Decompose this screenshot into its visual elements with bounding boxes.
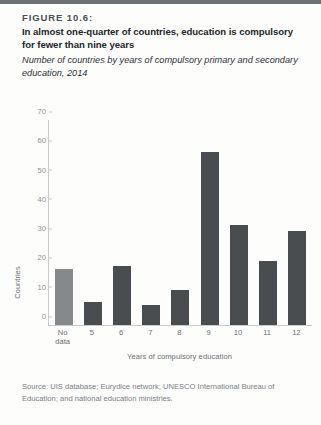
- y-axis-tick: 40: [38, 194, 49, 203]
- bar-slot: [224, 120, 253, 325]
- source-note: Source: UIS database; Eurydice network; …: [22, 381, 304, 405]
- y-axis-tick-label: 70: [38, 107, 49, 116]
- bar[interactable]: [288, 231, 306, 325]
- figure-label: FIGURE 10.6:: [22, 12, 302, 23]
- bar-chart: Countries 010203040506070 Nodata56789101…: [0, 108, 321, 370]
- bar-slot: [137, 120, 166, 325]
- y-axis-tick: 30: [38, 224, 49, 233]
- x-axis-tick-label: 5: [77, 328, 106, 347]
- bar-series: [49, 120, 312, 325]
- bar[interactable]: [142, 305, 160, 326]
- x-axis-tick-label: 8: [165, 328, 194, 347]
- x-axis-tick-label: 10: [223, 328, 252, 347]
- bar[interactable]: [113, 266, 131, 325]
- bar-slot: [166, 120, 195, 325]
- figure-page: FIGURE 10.6: In almost one-quarter of co…: [0, 0, 321, 425]
- bar-slot: [283, 120, 312, 325]
- bar-slot: [78, 120, 107, 325]
- y-axis-tick-label: 30: [38, 224, 49, 233]
- y-axis-tick-label: 0: [42, 312, 49, 321]
- figure-subtitle: Number of countries by years of compulso…: [22, 54, 302, 80]
- y-axis-tick-label: 40: [38, 194, 49, 203]
- y-axis-tick-mark: [49, 111, 52, 112]
- x-axis-tick-label: Nodata: [48, 328, 77, 347]
- y-axis-tick: 0: [42, 312, 49, 321]
- bar[interactable]: [259, 261, 277, 325]
- figure-title: In almost one-quarter of countries, educ…: [22, 26, 302, 52]
- y-axis-tick: 50: [38, 165, 49, 174]
- bar[interactable]: [55, 269, 73, 325]
- x-axis-title: Years of compulsory education: [48, 352, 311, 361]
- bar[interactable]: [84, 302, 102, 325]
- bar-slot: [254, 120, 283, 325]
- bar-slot: [107, 120, 136, 325]
- x-axis-tick-label: 12: [282, 328, 311, 347]
- y-axis-tick-label: 10: [38, 282, 49, 291]
- x-axis-tick-label: 7: [136, 328, 165, 347]
- y-axis-tick-label: 60: [38, 136, 49, 145]
- bar-slot: [49, 120, 78, 325]
- bar[interactable]: [230, 225, 248, 325]
- y-axis-tick: 70: [38, 107, 49, 116]
- plot-area: 010203040506070: [48, 120, 312, 326]
- y-axis-tick: 10: [38, 282, 49, 291]
- y-axis-tick: 20: [38, 253, 49, 262]
- bar-slot: [195, 120, 224, 325]
- x-axis-tick-label: 6: [106, 328, 135, 347]
- y-axis-title: Countries: [13, 253, 22, 313]
- x-axis-tick-label: 11: [253, 328, 282, 347]
- top-divider: [0, 0, 321, 4]
- bar[interactable]: [171, 290, 189, 325]
- figure-header: FIGURE 10.6: In almost one-quarter of co…: [22, 12, 302, 80]
- y-axis-tick: 60: [38, 136, 49, 145]
- x-axis-tick-label: 9: [194, 328, 223, 347]
- y-axis-tick-label: 50: [38, 165, 49, 174]
- y-axis-tick-label: 20: [38, 253, 49, 262]
- bar[interactable]: [201, 152, 219, 325]
- x-axis-tick-labels: Nodata56789101112: [48, 328, 311, 347]
